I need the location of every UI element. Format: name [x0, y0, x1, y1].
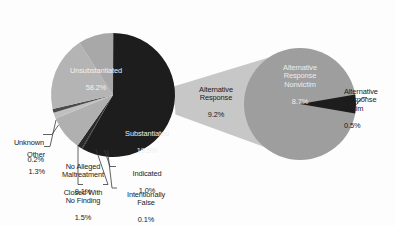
- label-unsubstantiated-name: Unsubstantiated: [70, 66, 122, 75]
- label-unsubstantiated-value: 58.2%: [86, 83, 106, 92]
- label-intentionally-false-name: Intentionally False: [127, 190, 165, 208]
- label-alternative-response: Alternative Response 9.2%: [186, 77, 246, 120]
- label-other-name: Other: [27, 150, 45, 159]
- label-substantiated-value: 19.5%: [137, 146, 157, 155]
- label-intentionally-false: Intentionally False 0.1%: [115, 182, 177, 225]
- label-ar-nonvictim: Alternative Response Nonvictim 8.7%: [264, 55, 336, 107]
- label-unsubstantiated: Unsubstantiated 58.2%: [48, 58, 144, 92]
- label-ar-nonvictim-name: Alternative Response Nonvictim: [283, 63, 317, 89]
- label-ar-victim: Alternative Response Victim 0.5%: [344, 79, 395, 131]
- label-substantiated: Substantiated 19.5%: [108, 121, 186, 155]
- label-closed-with-no-finding-name: Closed With No Finding: [64, 188, 103, 206]
- label-other: Other 1.3%: [0, 142, 45, 176]
- label-ar-victim-name: Alternative Response Victim: [344, 87, 378, 113]
- label-no-alleged-maltreatment-name: No Alleged Maltreatment: [62, 162, 104, 180]
- pie-chart-figure: Unsubstantiated 58.2% Substantiated 19.5…: [0, 0, 395, 226]
- label-closed-with-no-finding: Closed With No Finding 1.5%: [47, 180, 119, 223]
- label-intentionally-false-value: 0.1%: [138, 215, 154, 224]
- label-ar-victim-value: 0.5%: [344, 121, 360, 130]
- label-alternative-response-name: Alternative Response: [199, 85, 233, 103]
- label-alternative-response-value: 9.2%: [208, 110, 224, 119]
- label-indicated-name: Indicated: [132, 169, 161, 178]
- label-other-value: 1.3%: [29, 167, 45, 176]
- label-substantiated-name: Substantiated: [125, 129, 169, 138]
- label-closed-with-no-finding-value: 1.5%: [75, 213, 91, 222]
- label-ar-nonvictim-value: 8.7%: [292, 97, 308, 106]
